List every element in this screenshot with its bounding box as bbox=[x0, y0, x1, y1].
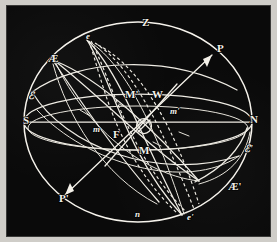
label-equinox-lower: Æ' bbox=[228, 181, 242, 192]
pole-upper-arrowhead bbox=[203, 55, 212, 67]
engraving-plate-frame: ZPP'ÆÆ'ℰℰ'SNWFee'nM'Mm'm bbox=[0, 0, 277, 242]
celestial-sphere-figure: ZPP'ÆÆ'ℰℰ'SNWFee'nM'Mm'm bbox=[7, 6, 271, 237]
label-pole-upper: P bbox=[217, 42, 224, 54]
colure-arc-1 bbox=[54, 62, 159, 202]
label-pole-lower: P' bbox=[59, 192, 69, 204]
label-node-e-lower: e' bbox=[187, 212, 194, 222]
label-zenith: Z bbox=[142, 16, 149, 28]
right-limb-arc bbox=[195, 128, 247, 182]
label-moon-upper: M' bbox=[125, 88, 138, 100]
label-south-point: S bbox=[23, 114, 29, 126]
label-east-point: F bbox=[113, 128, 120, 140]
label-moon-small-upper: m' bbox=[170, 106, 180, 116]
tick-mark-right bbox=[179, 132, 189, 136]
label-north-point: N bbox=[250, 113, 258, 125]
tick-mark-lower bbox=[153, 142, 161, 146]
label-equinox-upper: Æ bbox=[48, 53, 59, 64]
label-nadir-n: n bbox=[135, 209, 140, 219]
label-node-e-upper: e bbox=[86, 31, 90, 41]
label-west-point: W bbox=[152, 88, 163, 100]
label-moon-small-lower: m bbox=[93, 124, 100, 134]
label-ecliptic-right: ℰ' bbox=[244, 143, 253, 154]
engraving-plate: ZPP'ÆÆ'ℰℰ'SNWFee'nM'Mm'm bbox=[6, 5, 271, 237]
label-moon-lower: M bbox=[139, 144, 150, 156]
